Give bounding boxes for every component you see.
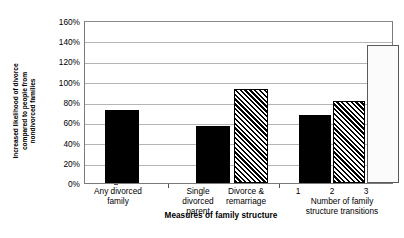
y-tick-100: 100% [36,79,80,87]
bar-label-divorce-and-remarriage: Divorce & remarriage [218,187,274,207]
x-tick-label-1: 1 [291,187,305,197]
x-axis-title: Measures of family structure [0,211,404,220]
gridline-140 [85,42,392,43]
group2-bar1-label-line-1: Single [186,186,209,196]
y-tick-0: 0% [36,180,80,188]
bar-chart: Increased likelihood of divorce compared… [0,0,404,238]
bar-divorce-and-remarriage [234,89,268,183]
group3-label-line-1: Number of family [311,196,374,206]
group2-bar2-label-line-2: remarriage [226,196,266,206]
y-tick-60: 60% [36,119,80,127]
y-tick-40: 40% [36,140,80,148]
plot-area [84,21,393,184]
bar-transitions-2 [333,101,365,184]
bar-any-divorced-family [105,110,139,183]
y-axis-tick-labels: 160% 140% 120% 100% 80% 60% 40% 20% 0% [34,0,80,238]
y-axis-title-line-1: Increased likelihood of divorce [12,63,21,158]
bar-transitions-1 [299,115,331,183]
group1-label-line-1: Any divorced [94,186,142,196]
group2-bar1-label-line-2: divorced [182,196,213,206]
y-tick-140: 140% [36,38,80,46]
x-separator-1 [168,184,169,188]
gridline-120 [85,63,392,64]
group1-label-line-2: family [107,196,129,206]
y-tick-120: 120% [36,58,80,66]
x-separator-2 [279,184,280,188]
y-tick-80: 80% [36,99,80,107]
group2-bar2-label-line-1: Divorce & [228,186,264,196]
y-axis-title-line-2: compared to people from [21,72,30,150]
group-label-any-divorced-family: Any divorced family [84,187,152,207]
gridline-100 [85,83,392,84]
y-tick-160: 160% [36,18,80,26]
bar-transitions-3 [367,45,399,183]
bar-single-divorced-parent [196,126,230,183]
y-tick-20: 20% [36,160,80,168]
